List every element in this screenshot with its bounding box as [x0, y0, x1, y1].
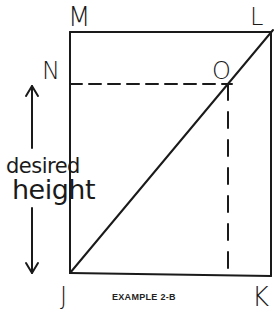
point-label-o: O — [212, 59, 231, 83]
height-label-line2: height — [12, 176, 95, 203]
edge-jk — [70, 273, 271, 276]
diagonal-jl — [70, 30, 273, 273]
point-label-j: J — [60, 284, 67, 308]
point-label-k: K — [252, 284, 269, 310]
point-label-m: M — [68, 4, 90, 30]
point-label-l: L — [250, 5, 263, 29]
point-label-n: N — [42, 59, 60, 83]
figure-caption: EXAMPLE 2-B — [112, 293, 176, 302]
